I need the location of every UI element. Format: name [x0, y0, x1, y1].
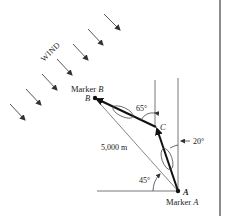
vector-ac [157, 129, 178, 191]
wind-arrow-icon [73, 44, 88, 60]
vector-diagram: WIND Marker B B 65° C 20° 5,000 m 45° A … [0, 0, 225, 216]
wind-arrow-icon [26, 89, 41, 105]
point-a-label: A [182, 187, 189, 197]
angle-20-arc [170, 145, 178, 148]
angle-65-label: 65° [136, 104, 147, 113]
wind-arrow-icon [88, 29, 103, 45]
angle-45-arc [153, 174, 160, 191]
wind-arrow-icon [42, 74, 57, 90]
angle-45-label: 45° [139, 176, 150, 185]
point-c-label: C [160, 122, 166, 132]
wind-arrows [10, 14, 120, 120]
marker-a-label: Marker A [166, 197, 199, 207]
wind-arrow-icon [10, 104, 25, 120]
angle-65-arc [141, 113, 155, 120]
angle-20-label: 20° [193, 137, 204, 146]
wind-arrow-icon [104, 14, 120, 30]
point-b-label: B [85, 93, 90, 103]
wind-label: WIND [39, 40, 62, 63]
wind-arrow-icon [57, 59, 72, 75]
point-b-dot [93, 96, 97, 100]
point-a-dot [176, 189, 180, 193]
distance-label: 5,000 m [101, 143, 128, 152]
